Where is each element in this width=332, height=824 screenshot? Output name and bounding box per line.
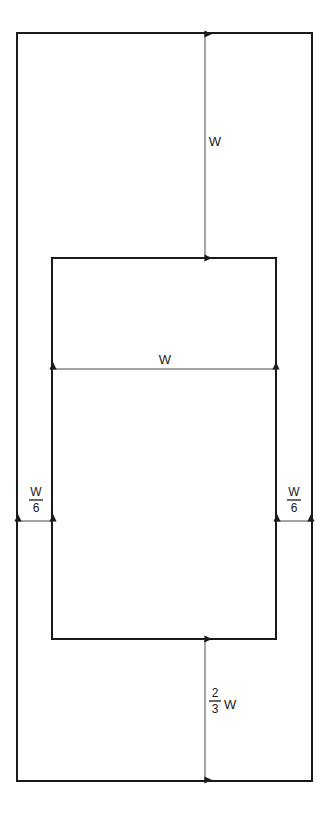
bottom-gap-numerator: 2: [212, 686, 219, 700]
right-margin-denominator: 6: [291, 501, 298, 515]
left-margin-numerator: W: [30, 485, 42, 499]
inner-width-dimension: W: [53, 352, 276, 369]
bottom-gap-denominator: 3: [212, 702, 219, 716]
left-margin-denominator: 6: [33, 501, 40, 515]
outer-boundary-rectangle: [17, 33, 312, 781]
top-gap-dimension-label: W: [209, 134, 222, 149]
diagram-canvas: W W W 6 W 6 2 3 W: [0, 0, 332, 824]
bottom-gap-dimension: 2 3 W: [205, 639, 237, 780]
bottom-gap-unit-label: W: [224, 697, 237, 712]
left-margin-dimension: W 6: [18, 485, 53, 521]
top-gap-dimension: W: [205, 34, 222, 258]
inner-rectangle: [52, 258, 276, 639]
right-margin-numerator: W: [288, 485, 300, 499]
inner-width-dimension-label: W: [159, 352, 172, 367]
dimensioned-rectangle-diagram: W W W 6 W 6 2 3 W: [0, 0, 332, 824]
right-margin-dimension: W 6: [277, 485, 311, 521]
